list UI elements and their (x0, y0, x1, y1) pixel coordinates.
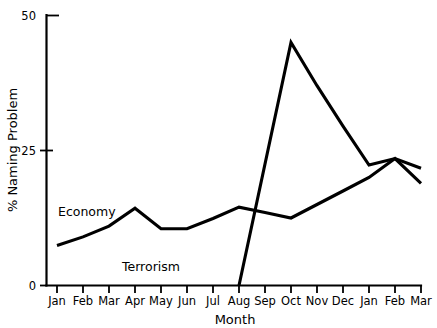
x-tick-label-feb-1: Feb (73, 294, 93, 308)
y-tick-label-50: 50 (21, 9, 36, 23)
x-tick-label-nov: Nov (306, 294, 329, 308)
x-tick-label-sep: Sep (254, 294, 276, 308)
x-axis-title: Month (215, 312, 256, 327)
y-axis-ticks (40, 16, 59, 286)
x-tick-label-jan-2: Jan (359, 294, 378, 308)
x-tick-label-jul: Jul (205, 294, 220, 308)
x-tick-label-dec: Dec (332, 294, 354, 308)
x-tick-label-feb-2: Feb (385, 294, 405, 308)
chart-plot-area: 0 25 50 % Naming Problem Jan Feb Mar Ap (0, 0, 437, 328)
y-tick-label-25: 25 (21, 144, 36, 158)
x-tick-label-jun: Jun (177, 294, 196, 308)
x-tick-label-jan-1: Jan (47, 294, 66, 308)
y-tick-label-0: 0 (29, 279, 36, 293)
series-line-economy (57, 159, 421, 246)
x-tick-label-oct: Oct (281, 294, 301, 308)
series-annotation-economy: Economy (58, 204, 116, 219)
x-tick-label-apr: Apr (125, 294, 145, 308)
x-tick-label-may: May (149, 294, 173, 308)
series-line-terrorism (239, 43, 421, 286)
x-tick-label-mar-2: Mar (410, 294, 432, 308)
x-axis-ticks (57, 286, 421, 294)
line-chart: 0 25 50 % Naming Problem Jan Feb Mar Ap (0, 0, 437, 328)
x-tick-label-aug: Aug (228, 294, 250, 308)
x-tick-label-mar-1: Mar (98, 294, 120, 308)
series-annotation-terrorism: Terrorism (121, 259, 180, 274)
y-axis-title: % Naming Problem (5, 88, 20, 212)
